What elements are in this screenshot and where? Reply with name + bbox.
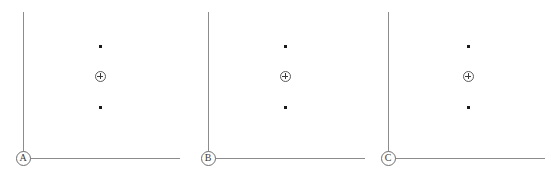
panel-c: C	[0, 0, 185, 177]
horizontal-axis-b	[208, 158, 365, 159]
horizontal-axis-c	[388, 158, 545, 159]
vertical-axis-b	[208, 12, 209, 159]
marker-dot-upper-c	[467, 45, 470, 48]
origin-label-c: C	[381, 151, 396, 166]
marker-dot-lower-c	[467, 106, 470, 109]
circled-plus-marker-b	[280, 71, 291, 82]
plus-vertical-stroke	[468, 73, 469, 79]
circled-plus-marker-c	[463, 71, 474, 82]
plus-vertical-stroke	[285, 73, 286, 79]
figure-canvas: A B C	[0, 0, 551, 177]
marker-dot-lower-b	[284, 106, 287, 109]
origin-label-b: B	[201, 151, 216, 166]
vertical-axis-c	[388, 12, 389, 159]
marker-dot-upper-b	[284, 45, 287, 48]
